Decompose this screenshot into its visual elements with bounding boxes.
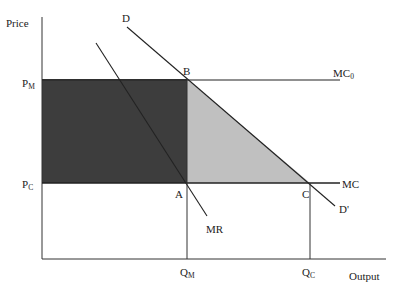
pm-label: PM xyxy=(22,77,35,91)
demand-label: D xyxy=(122,12,130,24)
qm-label: QM xyxy=(180,266,195,280)
y-axis-label: Price xyxy=(6,17,29,29)
qc-label: QC xyxy=(302,266,315,280)
mc0-label: MC0 xyxy=(333,67,354,81)
point-a-label: A xyxy=(175,188,183,200)
x-axis-label: Output xyxy=(349,270,380,282)
point-c-label: C xyxy=(302,188,309,200)
pc-label: PC xyxy=(22,178,33,192)
point-b-label: B xyxy=(183,65,190,77)
mc-label: MC xyxy=(342,178,359,190)
monopoly-diagram: Price Output PM PC QM QC D D' MR MC MC0 … xyxy=(0,0,398,294)
demand-prime-label: D' xyxy=(339,203,349,215)
mr-label: MR xyxy=(206,223,224,235)
monopoly-profit-region xyxy=(42,79,187,183)
